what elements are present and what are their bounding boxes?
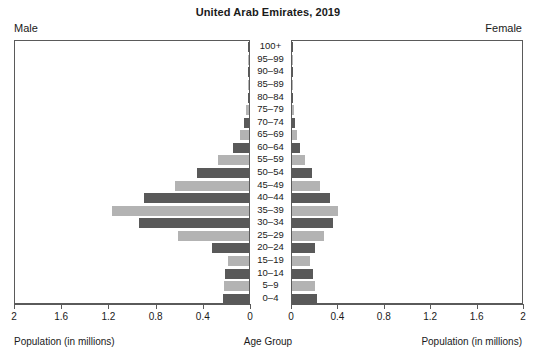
age-group-label-100+: 100+ [250, 40, 291, 52]
bar-female-10–14 [292, 269, 313, 279]
bar-female-5–9 [292, 281, 315, 291]
bar-male-80–84 [248, 93, 249, 103]
bar-male-25–29 [178, 231, 249, 241]
age-group-label-85–89: 85–89 [250, 78, 291, 90]
bar-female-85–89 [292, 80, 293, 90]
age-group-label-75–79: 75–79 [250, 103, 291, 115]
bar-female-0–4 [292, 294, 317, 304]
bar-female-65–69 [292, 130, 297, 140]
age-group-label-40–44: 40–44 [250, 191, 291, 203]
bar-male-10–14 [225, 269, 249, 279]
bar-male-15–19 [228, 256, 249, 266]
x-tick-label-0.8: 0.8 [377, 311, 391, 322]
bar-female-70–74 [292, 118, 295, 128]
age-group-label-35–39: 35–39 [250, 204, 291, 216]
age-group-label-65–69: 65–69 [250, 128, 291, 140]
male-plot-area [14, 40, 250, 304]
x-tick-label-0.4: 0.4 [196, 311, 210, 322]
bar-female-80–84 [292, 93, 293, 103]
bar-male-90–94 [248, 67, 249, 77]
x-tick-label-2: 2 [520, 311, 526, 322]
x-tick-label-0.8: 0.8 [149, 311, 163, 322]
age-group-label-30–34: 30–34 [250, 216, 291, 228]
bar-female-60–64 [292, 143, 300, 153]
bar-male-0–4 [223, 294, 249, 304]
x-tick-1.6 [61, 304, 62, 309]
x-tick-1.6 [477, 304, 478, 309]
bar-male-45–49 [175, 181, 249, 191]
bar-male-65–69 [240, 130, 249, 140]
age-group-label-70–74: 70–74 [250, 116, 291, 128]
x-tick-2 [523, 304, 524, 309]
x-tick-label-0.4: 0.4 [330, 311, 344, 322]
bar-female-25–29 [292, 231, 324, 241]
bar-male-60–64 [233, 143, 249, 153]
bar-male-75–79 [246, 105, 249, 115]
female-x-axis-line [291, 304, 523, 305]
bar-male-35–39 [112, 206, 249, 216]
age-group-label-50–54: 50–54 [250, 166, 291, 178]
age-group-label-95–99: 95–99 [250, 53, 291, 65]
x-tick-1.2 [108, 304, 109, 309]
population-pyramid-chart: United Arab Emirates, 2019 Male Female 1… [0, 0, 536, 363]
bar-female-50–54 [292, 168, 312, 178]
x-tick-label-1.6: 1.6 [54, 311, 68, 322]
x-tick-label-0: 0 [247, 311, 253, 322]
female-plot-area [291, 40, 523, 304]
x-tick-label-1.6: 1.6 [470, 311, 484, 322]
age-group-label-55–59: 55–59 [250, 153, 291, 165]
age-axis-title: Age Group [0, 336, 536, 347]
bar-female-40–44 [292, 193, 330, 203]
bar-male-95–99 [248, 55, 249, 65]
age-group-label-45–49: 45–49 [250, 179, 291, 191]
bar-male-30–34 [139, 218, 249, 228]
x-tick-0.4 [203, 304, 204, 309]
x-tick-0.8 [384, 304, 385, 309]
age-group-label-25–29: 25–29 [250, 229, 291, 241]
x-tick-0.4 [337, 304, 338, 309]
age-group-label-15–19: 15–19 [250, 254, 291, 266]
x-tick-1.2 [430, 304, 431, 309]
age-group-label-10–14: 10–14 [250, 267, 291, 279]
bar-female-30–34 [292, 218, 333, 228]
chart-title: United Arab Emirates, 2019 [0, 6, 536, 18]
male-side-label: Male [14, 22, 38, 34]
age-group-label-20–24: 20–24 [250, 241, 291, 253]
bar-male-70–74 [244, 118, 249, 128]
bar-female-15–19 [292, 256, 310, 266]
bar-female-20–24 [292, 243, 315, 253]
x-tick-2 [14, 304, 15, 309]
bar-female-55–59 [292, 155, 305, 165]
x-tick-label-1.2: 1.2 [101, 311, 115, 322]
bar-male-50–54 [197, 168, 249, 178]
age-group-label-0–4: 0–4 [250, 292, 291, 304]
age-group-label-80–84: 80–84 [250, 91, 291, 103]
female-bar-group [292, 41, 522, 303]
bar-female-100+ [292, 42, 293, 52]
bar-female-75–79 [292, 105, 294, 115]
x-tick-label-0: 0 [288, 311, 294, 322]
bar-male-85–89 [248, 80, 249, 90]
bar-female-45–49 [292, 181, 320, 191]
bar-male-55–59 [218, 155, 249, 165]
bar-female-35–39 [292, 206, 338, 216]
age-group-label-5–9: 5–9 [250, 279, 291, 291]
x-tick-0 [291, 304, 292, 309]
bar-male-5–9 [224, 281, 249, 291]
x-tick-0 [250, 304, 251, 309]
bar-female-90–94 [292, 67, 293, 77]
x-tick-0.8 [156, 304, 157, 309]
age-group-label-90–94: 90–94 [250, 65, 291, 77]
bar-male-20–24 [212, 243, 249, 253]
bar-female-95–99 [292, 55, 293, 65]
female-side-label: Female [485, 22, 522, 34]
bar-male-40–44 [144, 193, 249, 203]
x-tick-label-1.2: 1.2 [423, 311, 437, 322]
age-group-axis: 100+95–9990–9485–8980–8475–7970–7465–696… [250, 40, 291, 304]
age-group-label-60–64: 60–64 [250, 141, 291, 153]
bar-male-100+ [248, 42, 249, 52]
male-bar-group [15, 41, 249, 303]
male-x-axis-line [14, 304, 250, 305]
x-tick-label-2: 2 [11, 311, 17, 322]
